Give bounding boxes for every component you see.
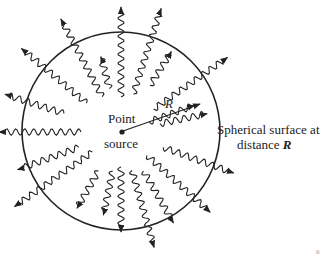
radius-label: R xyxy=(165,96,173,111)
wave-arrow xyxy=(102,171,115,215)
wave-arrow xyxy=(100,57,112,89)
corner-mark: 6 xyxy=(316,245,320,258)
source-label-line1: Point xyxy=(108,111,135,126)
wave-arrow xyxy=(77,171,99,208)
wave-arrow xyxy=(130,171,154,248)
source-label-line2: source xyxy=(104,136,138,151)
surface-label-distance: distance xyxy=(237,137,280,152)
wave-arrow xyxy=(18,145,79,170)
wave-arrow xyxy=(5,93,64,114)
wave-arrow xyxy=(163,147,234,173)
wave-arrow xyxy=(160,112,207,127)
wave-arrow xyxy=(133,8,162,94)
surface-label-line2: distance R xyxy=(237,137,292,152)
wave-arrow xyxy=(142,171,174,223)
wave-arrow xyxy=(21,48,87,103)
wave-arrow xyxy=(146,155,210,212)
wave-arrow xyxy=(61,19,104,97)
surface-label-var: R xyxy=(283,137,292,152)
radiation-waves xyxy=(0,7,234,247)
wave-arrow xyxy=(150,51,171,85)
wave-arrow xyxy=(118,167,124,232)
wave-arrow xyxy=(118,7,124,97)
wave-arrow xyxy=(0,129,81,135)
surface-label-line1: Spherical surface at xyxy=(217,122,320,137)
